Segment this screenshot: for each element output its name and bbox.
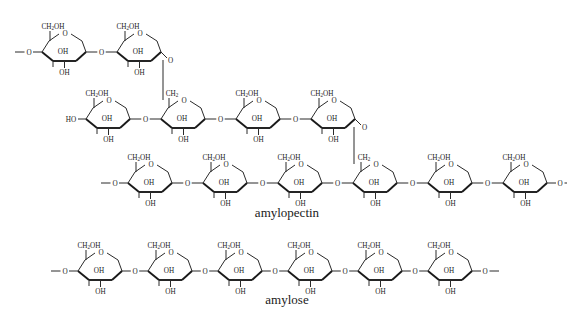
amylopectin-main-chain-terminal-oxygen-right: O [557, 180, 562, 188]
ring-edge-c1-c4next [258, 260, 262, 271]
caption-amylose: amylose [217, 292, 357, 308]
ring-edge-o-c1 [146, 34, 157, 41]
ring-front-edge-left [78, 271, 89, 280]
ring-front-edge-right [345, 119, 355, 128]
c3-hydroxyl-label: OH [370, 200, 380, 208]
c6-label-ch2oh: CH2OH [311, 90, 334, 99]
amylopectin-branch-middle-terminal-ho-label: HO [66, 116, 76, 124]
svg-text:CH2OH: CH2OH [218, 242, 241, 251]
ring-oxygen-label: O [523, 161, 528, 169]
svg-text:CH2: CH2 [166, 90, 179, 99]
c3-hydroxyl-label: OH [328, 136, 338, 144]
ring-oxygen-label: O [448, 161, 453, 169]
ring-edge-o-c1 [457, 253, 468, 260]
c6-label-ch2oh: CH2OH [288, 242, 311, 251]
ring-edge-c4-c5 [428, 172, 435, 183]
ring-front-edge-left [161, 119, 172, 128]
ring-front-edge-left [42, 52, 53, 61]
ring-edge-c4-c5 [288, 260, 295, 271]
starch-structure-figure: OCH2OHOHOHOCH2OHOHOHOOOOCH2OHOHOHOCH2OHO… [0, 0, 567, 323]
svg-text:CH2: CH2 [358, 154, 371, 163]
ring-oxygen-label: O [223, 161, 228, 169]
c2-hydroxyl-label: OH [252, 115, 262, 123]
c3-hydroxyl-label: OH [445, 200, 455, 208]
ring-edge-c4-c5 [503, 172, 510, 183]
c6-label-ch2oh: CH2OH [78, 242, 101, 251]
ring-oxygen-label: O [373, 161, 378, 169]
ring-edge-o-c1 [340, 101, 351, 108]
ring-front-edge-left [218, 271, 229, 280]
amylopectin-main-chain-glycosidic-link-0-oxygen-label: O [185, 180, 190, 188]
c6-label-ch2oh: CH2OH [128, 154, 151, 163]
svg-text:CH2OH: CH2OH [117, 23, 140, 32]
ring-front-edge-right [151, 52, 161, 61]
c6-label-ch2oh: CH2OH [86, 90, 109, 99]
c2-hydroxyl-label: OH [234, 267, 244, 275]
ring-oxygen-label: O [238, 249, 243, 257]
ring-edge-c1-c4next [393, 172, 397, 183]
ring-front-edge-right [237, 183, 247, 192]
c6-label-ch2oh: CH2OH [503, 154, 526, 163]
ring-edge-c4-c5 [358, 260, 365, 271]
c6-label-ch2oh: CH2OH [278, 154, 301, 163]
c3-hydroxyl-label: OH [103, 136, 113, 144]
ring-edge-c1-c4next [188, 260, 192, 271]
ring-edge-o-c1 [307, 165, 318, 172]
ring-edge-c1-c4next [351, 108, 355, 119]
amylopectin-main-chain-glycosidic-link-3-oxygen-label: O [410, 180, 415, 188]
ring-edge-c4-c5 [236, 108, 243, 119]
ring-edge-o-c1 [190, 101, 201, 108]
amylopectin-branch-middle-glycosidic-link-0-oxygen-label: O [143, 116, 148, 124]
ring-oxygen-label: O [168, 249, 173, 257]
ring-front-edge-left [358, 271, 369, 280]
ring-edge-c1-c4next [398, 260, 402, 271]
amylose-chain-glycosidic-link-1-oxygen-label: O [202, 268, 207, 276]
amylopectin-branch-upper-branch-bond-right [161, 52, 167, 58]
ring-front-edge-left [311, 119, 322, 128]
amylose-chain-glycosidic-link-2-oxygen-label: O [272, 268, 277, 276]
ring-oxygen-label: O [298, 161, 303, 169]
c2-hydroxyl-label: OH [177, 115, 187, 123]
c6-label-ch2oh: CH2OH [358, 242, 381, 251]
ring-edge-c4-c5 [128, 172, 135, 183]
svg-text:CH2OH: CH2OH [236, 90, 259, 99]
ring-front-edge-right [462, 183, 472, 192]
c2-hydroxyl-label: OH [58, 48, 68, 56]
ring-front-edge-right [322, 271, 332, 280]
svg-text:CH2OH: CH2OH [428, 242, 451, 251]
ring-edge-c1-c4next [543, 172, 547, 183]
ring-edge-c1-c4next [243, 172, 247, 183]
ring-edge-c4-c5 [161, 108, 168, 119]
svg-text:CH2OH: CH2OH [203, 154, 226, 163]
ring-front-edge-right [195, 119, 205, 128]
ring-edge-c1-c4next [82, 41, 86, 52]
c2-hydroxyl-label: OH [294, 179, 304, 187]
amylopectin-branch-middle-branch-oxygen-right: O [362, 124, 367, 132]
ring-oxygen-label: O [98, 249, 103, 257]
c2-hydroxyl-label: OH [133, 48, 143, 56]
c2-hydroxyl-label: OH [102, 115, 112, 123]
amylopectin-branch-middle-glycosidic-link-2-oxygen-label: O [293, 116, 298, 124]
ring-edge-o-c1 [382, 165, 393, 172]
ring-oxygen-label: O [331, 97, 336, 105]
c2-hydroxyl-label: OH [144, 179, 154, 187]
ring-front-edge-left [278, 183, 289, 192]
amylopectin-branch-upper-terminal-oxygen-left: O [26, 49, 31, 57]
svg-text:CH2OH: CH2OH [288, 242, 311, 251]
ring-edge-o-c1 [115, 101, 126, 108]
ring-front-edge-left [288, 271, 299, 280]
amylopectin-branch-upper-branch-oxygen-right: O [168, 57, 173, 65]
c2-hydroxyl-label: OH [444, 267, 454, 275]
ring-edge-c1-c4next [276, 108, 280, 119]
ring-edge-o-c1 [107, 253, 118, 260]
ring-edge-c4-c5 [203, 172, 210, 183]
ring-edge-c1-c4next [201, 108, 205, 119]
ring-front-edge-right [162, 183, 172, 192]
ring-edge-o-c1 [317, 253, 328, 260]
c3-hydroxyl-label: OH [95, 288, 105, 296]
ring-edge-c4-c5 [42, 41, 49, 52]
amylopectin-main-chain-glycosidic-link-2-oxygen-label: O [335, 180, 340, 188]
ring-front-edge-left [86, 119, 97, 128]
ring-oxygen-label: O [448, 249, 453, 257]
ring-front-edge-left [503, 183, 514, 192]
